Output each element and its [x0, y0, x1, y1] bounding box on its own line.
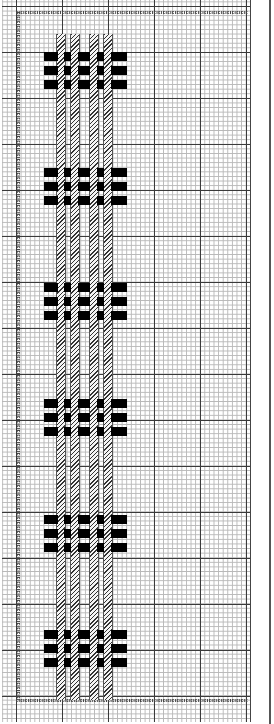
black-bar [78, 515, 90, 524]
hatched-stripe [70, 34, 80, 700]
black-bar [97, 196, 104, 205]
black-bar [78, 283, 90, 292]
black-bar [64, 311, 71, 320]
black-bar [97, 311, 104, 320]
black-bar [44, 80, 58, 89]
black-bar [64, 66, 71, 75]
border-left-chain [16, 12, 21, 700]
black-bar [78, 413, 90, 422]
black-bar [44, 311, 58, 320]
black-bar [78, 399, 90, 408]
black-bar [44, 644, 58, 653]
black-bar [111, 543, 127, 552]
black-bar [64, 427, 71, 436]
black-bar [111, 196, 127, 205]
black-bar [78, 182, 90, 191]
black-bar [78, 168, 90, 177]
black-bar [44, 399, 58, 408]
black-bar [78, 529, 90, 538]
black-bar [97, 413, 104, 422]
black-bar [44, 427, 58, 436]
pattern-chart [0, 0, 274, 724]
black-bar [111, 529, 127, 538]
black-bar [111, 399, 127, 408]
black-bar [78, 658, 90, 667]
black-bar [111, 515, 127, 524]
black-bar [111, 80, 127, 89]
black-bar [44, 66, 58, 75]
black-bar [64, 399, 71, 408]
black-bar [64, 515, 71, 524]
page-edge [269, 0, 271, 724]
black-bar [78, 630, 90, 639]
black-bar [64, 543, 71, 552]
black-bar [97, 283, 104, 292]
black-bar [44, 630, 58, 639]
black-bar [78, 52, 90, 61]
black-bar [97, 515, 104, 524]
black-bar [97, 52, 104, 61]
black-bar [64, 630, 71, 639]
black-bar [111, 630, 127, 639]
black-bar [64, 196, 71, 205]
black-bar [111, 413, 127, 422]
black-bar [64, 529, 71, 538]
black-bar [44, 543, 58, 552]
black-bar [97, 644, 104, 653]
black-bar [64, 297, 71, 306]
black-bar [44, 413, 58, 422]
black-bar [97, 66, 104, 75]
black-bar [97, 297, 104, 306]
black-bar [64, 168, 71, 177]
black-bar [64, 52, 71, 61]
black-bar [111, 168, 127, 177]
black-bar [97, 427, 104, 436]
black-bar [97, 529, 104, 538]
black-bar [78, 196, 90, 205]
black-bar [78, 297, 90, 306]
black-bar [78, 427, 90, 436]
black-bar [44, 658, 58, 667]
black-bar [44, 515, 58, 524]
border-top-chain [16, 10, 248, 15]
black-bar [44, 297, 58, 306]
black-bar [78, 543, 90, 552]
black-bar [97, 630, 104, 639]
black-bar [111, 658, 127, 667]
hatched-stripe [103, 34, 113, 700]
black-bar [97, 168, 104, 177]
black-bar [111, 52, 127, 61]
black-bar [64, 413, 71, 422]
hatched-stripe [56, 34, 66, 700]
black-bar [78, 66, 90, 75]
black-bar [64, 80, 71, 89]
black-bar [111, 427, 127, 436]
graph-grid [2, 0, 251, 722]
black-bar [111, 644, 127, 653]
black-bar [97, 182, 104, 191]
black-bar [78, 644, 90, 653]
black-bar [44, 182, 58, 191]
black-bar [111, 311, 127, 320]
black-bar [97, 80, 104, 89]
black-bar [78, 311, 90, 320]
black-bar [97, 543, 104, 552]
black-bar [78, 80, 90, 89]
black-bar [64, 658, 71, 667]
black-bar [44, 52, 58, 61]
black-bar [97, 658, 104, 667]
black-bar [44, 529, 58, 538]
hatched-stripe [89, 34, 99, 700]
black-bar [97, 399, 104, 408]
black-bar [111, 66, 127, 75]
black-bar [111, 182, 127, 191]
black-bar [111, 283, 127, 292]
black-bar [44, 196, 58, 205]
black-bar [44, 168, 58, 177]
black-bar [64, 283, 71, 292]
border-bottom-chain [16, 698, 248, 703]
black-bar [111, 297, 127, 306]
black-bar [44, 283, 58, 292]
black-bar [64, 182, 71, 191]
black-bar [64, 644, 71, 653]
